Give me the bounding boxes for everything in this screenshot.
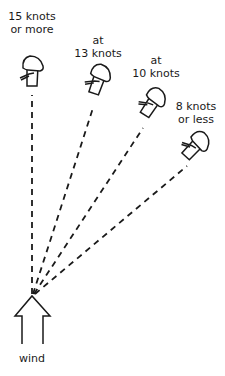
label-13-knots-line1: at — [70, 34, 126, 47]
boat-icon-13-knots — [82, 61, 113, 97]
boat-icon-8-knots — [177, 126, 214, 164]
wind-label: wind — [12, 352, 52, 365]
course-line-13-knots — [33, 108, 93, 294]
label-8-knots: 8 knots or less — [170, 100, 222, 126]
boat-icon-15-knots — [20, 56, 43, 86]
course-line-10-knots — [34, 128, 143, 294]
label-15-knots-line1: 15 knots — [6, 10, 58, 23]
label-15-knots: 15 knots or more — [6, 10, 58, 36]
label-8-knots-line1: 8 knots — [170, 100, 222, 113]
label-8-knots-line2: or less — [170, 113, 222, 126]
boat-icon-10-knots — [134, 83, 170, 121]
label-15-knots-line2: or more — [6, 23, 58, 36]
label-10-knots: at 10 knots — [128, 54, 184, 80]
label-13-knots-line2: 13 knots — [70, 47, 126, 60]
label-13-knots: at 13 knots — [70, 34, 126, 60]
course-line-8-knots — [35, 166, 187, 294]
label-10-knots-line2: 10 knots — [128, 67, 184, 80]
wind-arrow-icon — [15, 296, 50, 344]
label-10-knots-line1: at — [128, 54, 184, 67]
